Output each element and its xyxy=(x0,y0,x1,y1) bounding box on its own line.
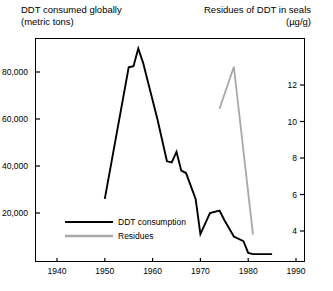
x-tick-label: 1950 xyxy=(95,266,114,276)
x-tick-label: 1990 xyxy=(287,266,306,276)
x-tick-label: 1940 xyxy=(48,266,67,276)
y-right-tick-label: 10 xyxy=(283,117,297,127)
legend-item-label: DDT consumption xyxy=(118,217,186,227)
x-tick-label: 1980 xyxy=(239,266,258,276)
chart-title-left: DDT consumed globally (metric tons) xyxy=(21,4,122,27)
y-right-tick-label: 6 xyxy=(283,190,297,200)
y-left-tick-label: 80,000 xyxy=(2,67,28,77)
ddt-chart: DDT consumed globally (metric tons) Resi… xyxy=(0,0,333,291)
y-right-tick-label: 12 xyxy=(283,80,297,90)
y-right-tick-label: 4 xyxy=(283,226,297,236)
y-left-tick-label: 40,000 xyxy=(2,161,28,171)
chart-title-right: Residues of DDT in seals (µg/g) xyxy=(204,4,311,27)
y-left-tick-label: 60,000 xyxy=(2,114,28,124)
y-right-tick-label: 8 xyxy=(283,153,297,163)
x-tick-label: 1960 xyxy=(143,266,162,276)
y-left-tick-label: 20,000 xyxy=(2,208,28,218)
legend-item-label: Residues xyxy=(118,231,153,241)
plot-frame xyxy=(35,38,305,262)
x-tick-label: 1970 xyxy=(191,266,210,276)
